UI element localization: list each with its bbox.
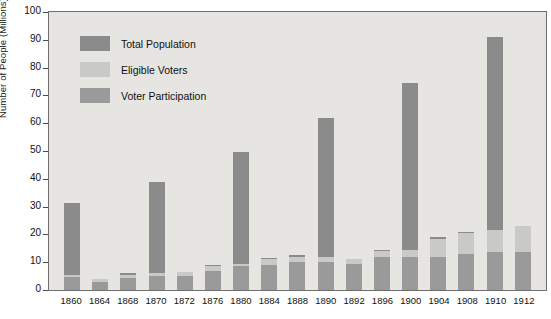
- x-axis-tick-label: 1910: [481, 295, 509, 306]
- y-axis-tick-mark: [43, 12, 48, 13]
- bar-segment-voter-participation: [318, 262, 334, 290]
- y-axis-tick-mark: [43, 68, 48, 69]
- x-axis-tick-label: 1888: [283, 295, 311, 306]
- x-axis-tick-label: 1868: [114, 295, 142, 306]
- bar-stack: [205, 265, 221, 290]
- x-axis-tick-label: 1884: [255, 295, 283, 306]
- bar-slot: [368, 12, 396, 290]
- bar-slot: [227, 12, 255, 290]
- x-axis-tick-label: 1896: [368, 295, 396, 306]
- bar-stack: [149, 182, 165, 290]
- bar-segment-voter-participation: [346, 264, 362, 290]
- x-axis-tick-label: 1880: [227, 295, 255, 306]
- legend-swatch-icon: [80, 62, 110, 77]
- bar-stack: [374, 250, 390, 290]
- bar-segment-voter-participation: [458, 254, 474, 290]
- bar-segment-total-population: [64, 203, 80, 275]
- bar-segment-total-population: [233, 152, 249, 263]
- bar-slot: [312, 12, 340, 290]
- bar-segment-total-population: [318, 118, 334, 257]
- bar-stack: [120, 273, 136, 290]
- bar-stack: [92, 279, 108, 290]
- bar-segment-voter-participation: [487, 252, 503, 290]
- y-axis-tick-mark: [43, 95, 48, 96]
- y-axis-tick-label: 90: [30, 33, 41, 44]
- legend-item-label: Eligible Voters: [121, 64, 188, 76]
- bar-segment-voter-participation: [120, 278, 136, 291]
- bar-slot: [255, 12, 283, 290]
- bar-segment-eligible-voters: [515, 226, 531, 252]
- bar-segment-voter-participation: [515, 252, 531, 290]
- legend-item-label: Total Population: [121, 38, 196, 50]
- x-axis-tick-label: 1890: [312, 295, 340, 306]
- y-axis-tick-label: 60: [30, 116, 41, 127]
- bar-segment-eligible-voters: [430, 239, 446, 257]
- y-axis-tick-mark: [43, 151, 48, 152]
- y-axis-tick-mark: [43, 40, 48, 41]
- bar-segment-total-population: [487, 37, 503, 230]
- bar-segment-eligible-voters: [487, 230, 503, 252]
- y-axis-tick-label: 10: [30, 255, 41, 266]
- bar-stack: [346, 259, 362, 290]
- bar-segment-eligible-voters: [402, 250, 418, 257]
- bar-segment-voter-participation: [205, 271, 221, 290]
- y-axis-tick-label: 0: [35, 283, 41, 294]
- bar-segment-voter-participation: [92, 282, 108, 290]
- x-axis-tick-label: 1860: [57, 295, 85, 306]
- bar-stack: [487, 37, 503, 290]
- bar-stack: [261, 258, 277, 290]
- x-axis-tick-label: 1872: [170, 295, 198, 306]
- chart-legend: Total PopulationEligible VotersVoter Par…: [80, 36, 206, 103]
- y-axis-tick-label: 100: [24, 5, 41, 16]
- bar-segment-voter-participation: [289, 262, 305, 290]
- bar-stack: [402, 83, 418, 290]
- legend-swatch-icon: [80, 36, 110, 51]
- bar-stack: [289, 255, 305, 290]
- legend-item-label: Voter Participation: [121, 90, 206, 102]
- x-axis-tick-label: 1892: [340, 295, 368, 306]
- y-axis-tick-mark: [43, 290, 48, 291]
- y-axis-tick-mark: [43, 234, 48, 235]
- y-axis-tick-label: 30: [30, 200, 41, 211]
- bar-stack: [318, 118, 334, 290]
- y-axis-tick-label: 70: [30, 88, 41, 99]
- y-axis-tick-mark: [43, 179, 48, 180]
- y-axis-tick-label: 80: [30, 61, 41, 72]
- x-axis: 1860186418681870187218761880188418881890…: [48, 295, 547, 306]
- bar-stack: [233, 152, 249, 290]
- y-axis-tick-mark: [43, 123, 48, 124]
- y-axis-title: Number of People (Millions): [0, 0, 8, 118]
- y-axis-tick-mark: [43, 262, 48, 263]
- bar-segment-total-population: [149, 182, 165, 274]
- x-axis-tick-label: 1870: [142, 295, 170, 306]
- y-axis-tick-label: 20: [30, 227, 41, 238]
- bar-stack: [64, 203, 80, 290]
- bar-slot: [509, 12, 537, 290]
- x-axis-tick-label: 1876: [198, 295, 226, 306]
- y-axis-tick-label: 50: [30, 144, 41, 155]
- bar-slot: [396, 12, 424, 290]
- bar-segment-voter-participation: [374, 257, 390, 290]
- legend-item: Eligible Voters: [80, 62, 206, 77]
- bar-slot: [340, 12, 368, 290]
- x-axis-tick-label: 1904: [425, 295, 453, 306]
- bar-stack: [430, 237, 446, 290]
- bar-segment-voter-participation: [402, 257, 418, 290]
- x-axis-tick-label: 1912: [510, 295, 538, 306]
- bar-stack: [458, 232, 474, 290]
- y-axis-tick-label: 40: [30, 172, 41, 183]
- legend-swatch-icon: [80, 88, 110, 103]
- bar-segment-voter-participation: [233, 266, 249, 290]
- bar-slot: [424, 12, 452, 290]
- bar-stack: [177, 272, 193, 290]
- bar-segment-voter-participation: [149, 276, 165, 290]
- legend-item: Voter Participation: [80, 88, 206, 103]
- x-axis-tick-label: 1900: [397, 295, 425, 306]
- bar-segment-eligible-voters: [458, 233, 474, 254]
- bar-slot: [481, 12, 509, 290]
- bar-slot: [452, 12, 480, 290]
- bar-segment-voter-participation: [177, 276, 193, 290]
- y-axis-tick-mark: [43, 207, 48, 208]
- bar-segment-total-population: [402, 83, 418, 250]
- x-axis-tick-label: 1908: [453, 295, 481, 306]
